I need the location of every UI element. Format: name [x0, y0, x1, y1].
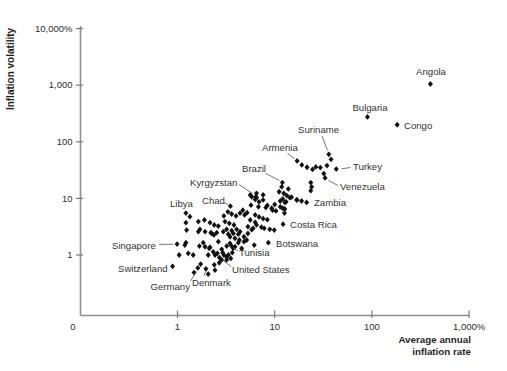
scatter-chart: 1101001,00010,000%1101001,000%0Inflation…: [0, 0, 507, 371]
leader-line-brazil: [266, 174, 280, 181]
data-point-singapore: [175, 241, 180, 247]
data-point: [272, 202, 277, 208]
data-point-suriname: [326, 151, 331, 157]
data-point-bulgaria: [365, 114, 370, 120]
data-point: [245, 231, 250, 237]
data-point-angola: [428, 81, 433, 87]
country-label-armenia: Armenia: [262, 142, 298, 153]
x-axis-title: Average annual: [398, 334, 471, 345]
data-point: [294, 197, 299, 203]
data-point: [231, 222, 236, 228]
x-tick-label: 10: [269, 321, 280, 332]
data-point: [222, 219, 227, 225]
data-point: [216, 223, 221, 229]
country-label-kyrgyzstan: Kyrgyzstan: [190, 177, 237, 188]
x-tick-label: 1,000%: [453, 321, 486, 332]
data-point-botswana: [266, 240, 271, 246]
country-label-germany: Germany: [151, 281, 191, 292]
country-label-angola: Angola: [416, 66, 447, 77]
data-point: [184, 227, 189, 233]
x-tick-label: 100: [364, 321, 380, 332]
data-point-turkey: [334, 166, 339, 172]
data-point: [203, 229, 208, 235]
data-point: [234, 213, 239, 219]
data-point: [305, 164, 310, 170]
data-point: [286, 186, 291, 192]
country-label-zambia: Zambia: [314, 197, 347, 208]
data-point: [212, 222, 217, 228]
y-tick-label: 1,000: [49, 79, 73, 90]
country-label-brazil: Brazil: [242, 163, 266, 174]
country-label-libya: Libya: [170, 198, 194, 209]
data-point: [216, 239, 221, 245]
data-point: [227, 220, 232, 226]
data-point: [324, 163, 329, 169]
data-point-armenia: [295, 158, 300, 164]
data-point: [299, 198, 304, 204]
data-point: [318, 165, 323, 171]
chart-canvas: 1101001,00010,000%1101001,000%0Inflation…: [0, 0, 507, 371]
y-tick-label: 10: [62, 193, 73, 204]
data-point-denmark: [203, 266, 208, 272]
y-axis-title: Inflation volatility: [5, 27, 16, 110]
leader-line-turkey: [342, 168, 351, 169]
data-point: [177, 252, 182, 258]
country-label-switzerland: Switzerland: [118, 263, 168, 274]
data-point-switzerland: [170, 263, 175, 269]
data-point: [183, 220, 188, 226]
country-label-bulgaria: Bulgaria: [352, 102, 388, 113]
data-point: [208, 220, 213, 226]
data-point: [265, 217, 270, 223]
country-label-suriname: Suriname: [298, 124, 339, 135]
data-point: [248, 202, 253, 208]
data-point-zambia: [304, 199, 309, 205]
data-point: [196, 219, 201, 225]
data-point: [191, 252, 196, 258]
data-point: [232, 235, 237, 241]
data-point: [197, 243, 202, 249]
x-origin-label: 0: [70, 321, 75, 332]
y-tick-label: 10,000%: [35, 23, 73, 34]
y-tick-label: 1: [67, 249, 72, 260]
data-point-costa-rica: [281, 221, 286, 227]
leader-line-armenia: [288, 154, 295, 159]
data-point: [206, 252, 211, 258]
leader-line-kyrgyzstan: [239, 185, 253, 194]
data-point: [279, 184, 284, 190]
data-point-germany: [195, 265, 200, 271]
data-point: [248, 217, 253, 223]
country-label-costa-rica: Costa Rica: [290, 219, 338, 230]
data-point: [261, 216, 266, 222]
data-point: [256, 204, 261, 210]
country-label-singapore: Singapore: [112, 240, 156, 251]
country-label-chad: Chad: [202, 195, 225, 206]
country-label-botswana: Botswana: [276, 238, 319, 249]
country-label-venezuela: Venezuela: [340, 181, 385, 192]
data-point: [202, 217, 207, 223]
leader-line-venezuela: [329, 181, 339, 186]
data-point: [198, 261, 203, 267]
data-point: [329, 156, 334, 162]
country-label-united-states: United States: [232, 264, 290, 275]
country-label-denmark: Denmark: [192, 277, 231, 288]
data-point: [187, 214, 192, 220]
data-point: [245, 224, 250, 230]
data-point: [212, 262, 217, 268]
data-point-congo: [395, 122, 400, 128]
x-tick-label: 1: [175, 321, 180, 332]
data-point-chad: [228, 203, 233, 209]
data-point: [267, 226, 272, 232]
leader-line-denmark: [204, 272, 206, 277]
data-point-brazil: [280, 180, 285, 186]
country-label-turkey: Turkey: [353, 161, 382, 172]
data-point: [221, 213, 226, 219]
country-label-tunisia: Tunisia: [239, 247, 270, 258]
data-point: [273, 208, 278, 214]
data-point: [272, 227, 277, 233]
data-point: [230, 250, 235, 256]
data-point-libya: [183, 210, 188, 216]
country-label-congo: Congo: [404, 120, 432, 131]
data-point: [212, 267, 217, 273]
x-axis-title: inflation rate: [412, 346, 471, 357]
y-tick-label: 100: [57, 136, 73, 147]
